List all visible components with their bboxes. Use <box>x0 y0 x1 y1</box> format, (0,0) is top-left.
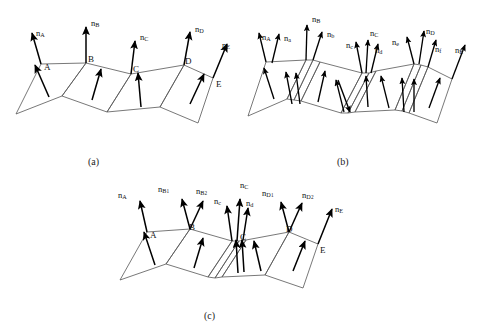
panel-caption-a: (a) <box>88 156 99 167</box>
sub-c-nd: d <box>250 201 253 208</box>
sliver-b-6 <box>402 65 428 113</box>
sub-a-nD: D <box>199 27 204 34</box>
arrow-b-nD <box>419 31 424 64</box>
arrow-c-f4 <box>293 241 305 271</box>
sub-b-nA: A <box>266 35 271 42</box>
normal-label-b-nA: nA <box>262 32 271 42</box>
sub-c-nA: A <box>122 193 127 200</box>
sub-c-nD1: D1 <box>266 191 273 198</box>
arrow-c-f3 <box>254 241 261 271</box>
panel-a-surface <box>16 63 213 123</box>
arrow-b-ne <box>407 37 414 64</box>
sliver-b-5 <box>395 64 421 111</box>
sub-b-nc: c <box>350 43 353 50</box>
normal-label-c-nc: nc <box>214 196 221 206</box>
vertex-label-a-D: D <box>185 56 192 66</box>
sub-b-nB: B <box>316 17 320 24</box>
facet-a-4 <box>160 65 213 123</box>
diagram-canvas <box>0 0 480 333</box>
arrow-b-na <box>272 34 279 63</box>
vertex-label-a-B: B <box>88 54 94 64</box>
facet-a-2 <box>62 63 131 112</box>
sub-b-nC: C <box>374 31 378 38</box>
arrow-b-f4 <box>429 78 440 108</box>
normal-label-a-nA: nA <box>36 28 45 38</box>
arrow-a-f3 <box>138 73 141 107</box>
figure-root: nA nB nC nD nE A B C D E (a) nA na nB nb… <box>0 0 480 333</box>
facet-b-4 <box>409 67 452 123</box>
arrow-c-s2 <box>242 240 244 272</box>
arrow-b-nb <box>313 32 322 60</box>
sub-c-nC: C <box>244 183 248 190</box>
normal-label-a-nC: nC <box>140 32 149 42</box>
panel-caption-b: (b) <box>337 156 349 167</box>
sub-a-nE: E <box>226 43 230 50</box>
normal-label-b-ne: ne <box>392 37 399 47</box>
normal-label-c-nB2: nB2 <box>196 186 207 196</box>
sub-c-nB1: B1 <box>162 187 169 194</box>
arrow-b-s5 <box>402 78 404 112</box>
vertex-label-a-E: E <box>216 79 222 89</box>
normal-label-b-nE: nE <box>455 45 463 55</box>
sliver-b-1 <box>287 60 313 100</box>
vertex-label-c-E: E <box>320 245 326 255</box>
vertex-label-a-A: A <box>44 62 51 72</box>
panel-b-surface <box>248 60 452 123</box>
vertex-label-c-A: A <box>150 230 157 240</box>
arrow-c-nE <box>318 209 332 244</box>
normal-label-a-nE: nE <box>222 40 230 50</box>
sub-c-nD2: D2 <box>306 193 313 200</box>
normal-label-b-nb: nb <box>327 29 335 39</box>
arrow-b-nc <box>356 42 362 73</box>
arrow-b-f2 <box>318 71 325 102</box>
sub-b-nE: E <box>459 48 463 55</box>
sub-c-nB2: B2 <box>200 189 207 196</box>
sub-b-nf: f <box>439 47 441 54</box>
arrow-c-nA <box>140 201 147 232</box>
arrow-b-s4 <box>366 76 368 107</box>
facet-c-4 <box>265 232 318 288</box>
arrow-b-nB <box>306 25 307 60</box>
normal-label-c-nA: nA <box>118 190 127 200</box>
arrow-c-f2 <box>194 238 203 268</box>
arrow-b-nC <box>366 40 368 73</box>
normal-label-c-nB1: nB1 <box>158 184 169 194</box>
facet-b-2 <box>301 62 362 113</box>
arrow-a-f4 <box>190 74 204 104</box>
facet-a-3 <box>107 65 184 112</box>
vertex-label-c-D: D <box>286 224 293 234</box>
normal-label-b-nC: nC <box>370 28 379 38</box>
normal-label-a-nD: nD <box>195 24 204 34</box>
arrow-c-s1 <box>236 240 238 273</box>
arrow-a-f2 <box>92 69 101 100</box>
sub-c-nE: E <box>339 207 343 214</box>
sub-b-nd: d <box>379 48 382 55</box>
arrow-b-f1 <box>264 68 274 99</box>
panel-a-normals <box>32 27 227 107</box>
vertex-label-c-C: C <box>240 232 246 242</box>
sub-b-ne: e <box>396 40 399 47</box>
normal-label-b-nB: nB <box>312 14 321 24</box>
sliver-b-2 <box>294 60 320 101</box>
normal-label-c-nD2: nD2 <box>302 190 314 200</box>
normal-label-b-nf: nf <box>435 44 442 54</box>
normal-label-c-nC: nC <box>240 180 249 190</box>
normal-label-b-na: na <box>284 33 291 43</box>
sub-a-nA: A <box>40 31 45 38</box>
sub-c-nc: c <box>218 199 221 206</box>
normal-label-c-nE: nE <box>335 204 343 214</box>
sub-b-nD: D <box>430 29 435 36</box>
panel-caption-c: (c) <box>204 310 215 321</box>
vertex-label-c-B: B <box>189 222 195 232</box>
normal-label-b-nD: nD <box>426 26 435 36</box>
vertex-label-a-C: C <box>133 64 139 74</box>
arrow-b-f3 <box>381 76 389 108</box>
arrow-c-nc <box>227 206 232 241</box>
normal-label-a-nB: nB <box>91 18 100 28</box>
sub-b-nb: b <box>331 32 334 39</box>
sub-a-nB: B <box>95 21 99 28</box>
sub-a-nC: C <box>144 35 148 42</box>
facet-a-1 <box>16 63 86 114</box>
sub-b-na: a <box>288 36 291 43</box>
normal-label-c-nd: nd <box>246 198 254 208</box>
